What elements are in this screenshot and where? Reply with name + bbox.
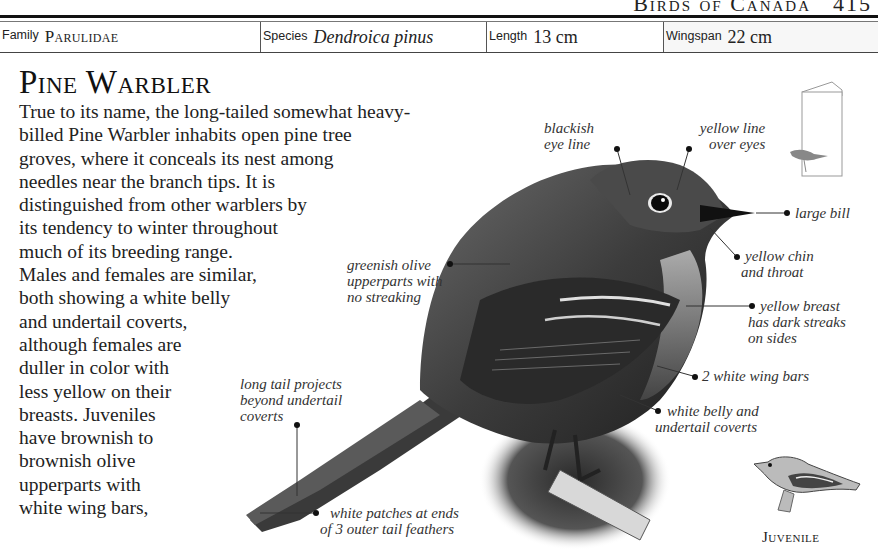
callout-large-bill: large bill bbox=[795, 205, 850, 221]
callout-chin-throat: yellow chin and throat bbox=[745, 248, 814, 280]
callout-breast: yellow breast has dark streaks on sides bbox=[760, 298, 846, 346]
callout-tail-patches: white patches at ends of 3 outer tail fe… bbox=[330, 505, 459, 537]
callout-eye-line: blackish eye line bbox=[544, 120, 594, 152]
callout-wing-bars: 2 white wing bars bbox=[702, 368, 809, 384]
callout-yellow-line: yellow line over eyes bbox=[695, 120, 765, 152]
callout-long-tail: long tail projects beyond undertail cove… bbox=[240, 376, 342, 424]
callout-upperparts: greenish olive upperparts with no streak… bbox=[347, 257, 442, 305]
juvenile-caption: Juvenile bbox=[762, 529, 820, 546]
juvenile-warbler-illustration bbox=[748, 448, 868, 528]
feeder-house-icon bbox=[784, 80, 864, 180]
callout-white-belly: white belly and undertail coverts bbox=[667, 403, 759, 435]
